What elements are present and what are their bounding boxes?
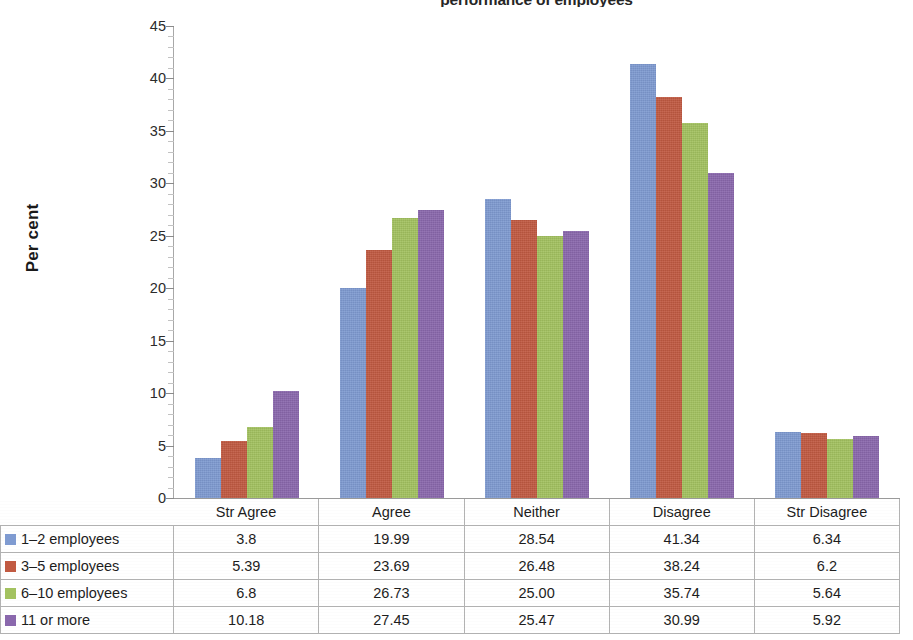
y-tick-mark xyxy=(166,26,174,27)
y-minor-tick-mark xyxy=(168,372,174,373)
legend-swatch-icon xyxy=(5,588,16,599)
table-header-row: Str AgreeAgreeNeitherDisagreeStr Disagre… xyxy=(1,499,900,526)
y-tick-mark xyxy=(166,288,174,289)
y-tick-label: 35 xyxy=(128,123,166,139)
table-value-cell: 6.8 xyxy=(174,580,319,607)
y-minor-tick-mark xyxy=(168,225,174,226)
y-tick-mark xyxy=(166,393,174,394)
table-row: 6–10 employees6.826.7325.0035.745.64 xyxy=(1,580,900,607)
legend-label: 11 or more xyxy=(21,612,90,628)
bar xyxy=(775,432,801,498)
table-value-cell: 41.34 xyxy=(609,526,754,553)
y-tick-mark xyxy=(166,78,174,79)
legend-cell: 3–5 employees xyxy=(1,553,174,580)
table-category-header: Str Disagree xyxy=(754,499,899,526)
y-minor-tick-mark xyxy=(168,383,174,384)
table-value-cell: 28.54 xyxy=(464,526,609,553)
table-value-cell: 30.99 xyxy=(609,607,754,634)
bar xyxy=(827,439,853,498)
bar xyxy=(563,231,589,498)
table-value-cell: 35.74 xyxy=(609,580,754,607)
table-category-header: Disagree xyxy=(609,499,754,526)
bar xyxy=(801,433,827,498)
y-tick-label: 20 xyxy=(128,280,166,296)
bar xyxy=(340,288,366,498)
y-axis-label: Per cent xyxy=(23,178,43,298)
table-row: 1–2 employees3.819.9928.5441.346.34 xyxy=(1,526,900,553)
y-minor-tick-mark xyxy=(168,320,174,321)
bar xyxy=(656,97,682,498)
y-minor-tick-mark xyxy=(168,162,174,163)
y-minor-tick-mark xyxy=(168,299,174,300)
bar xyxy=(247,427,273,498)
table-value-cell: 3.8 xyxy=(174,526,319,553)
table-value-cell: 6.2 xyxy=(754,553,899,580)
plot-area xyxy=(174,26,900,498)
legend-label: 1–2 employees xyxy=(21,531,119,547)
bar xyxy=(485,199,511,498)
legend-cell: 6–10 employees xyxy=(1,580,174,607)
y-minor-tick-mark xyxy=(168,467,174,468)
y-minor-tick-mark xyxy=(168,362,174,363)
bar-group xyxy=(319,26,464,498)
chart-title: performance of employees xyxy=(173,0,900,7)
bar xyxy=(708,173,734,498)
y-minor-tick-mark xyxy=(168,47,174,48)
y-tick-label: 15 xyxy=(128,333,166,349)
y-minor-tick-mark xyxy=(168,204,174,205)
table-category-header: Str Agree xyxy=(174,499,319,526)
bar xyxy=(392,218,418,498)
bar xyxy=(273,391,299,498)
y-minor-tick-mark xyxy=(168,99,174,100)
y-tick-label: 10 xyxy=(128,385,166,401)
legend-swatch-icon xyxy=(5,615,16,626)
y-minor-tick-mark xyxy=(168,309,174,310)
table-value-cell: 25.47 xyxy=(464,607,609,634)
bar xyxy=(630,64,656,498)
y-tick-label: 30 xyxy=(128,175,166,191)
y-tick-label: 40 xyxy=(128,70,166,86)
table-corner-cell xyxy=(1,499,174,526)
bar xyxy=(537,236,563,498)
bar-group xyxy=(464,26,609,498)
y-minor-tick-mark xyxy=(168,152,174,153)
y-minor-tick-mark xyxy=(168,173,174,174)
y-minor-tick-mark xyxy=(168,456,174,457)
bar xyxy=(418,210,444,498)
y-tick-mark xyxy=(166,131,174,132)
y-minor-tick-mark xyxy=(168,267,174,268)
y-minor-tick-mark xyxy=(168,110,174,111)
y-minor-tick-mark xyxy=(168,425,174,426)
y-minor-tick-mark xyxy=(168,57,174,58)
table-value-cell: 27.45 xyxy=(319,607,464,634)
y-minor-tick-mark xyxy=(168,435,174,436)
data-table: Str AgreeAgreeNeitherDisagreeStr Disagre… xyxy=(0,499,900,634)
y-tick-mark xyxy=(166,341,174,342)
table-value-cell: 19.99 xyxy=(319,526,464,553)
y-minor-tick-mark xyxy=(168,404,174,405)
legend-label: 3–5 employees xyxy=(21,558,119,574)
bar xyxy=(366,250,392,498)
table-value-cell: 5.92 xyxy=(754,607,899,634)
legend-label: 6–10 employees xyxy=(21,585,127,601)
table-value-cell: 5.39 xyxy=(174,553,319,580)
bar xyxy=(511,220,537,498)
legend-swatch-icon xyxy=(5,561,16,572)
table-category-header: Neither xyxy=(464,499,609,526)
bar xyxy=(853,436,879,498)
y-minor-tick-mark xyxy=(168,89,174,90)
y-minor-tick-mark xyxy=(168,477,174,478)
bar-group xyxy=(609,26,754,498)
bar xyxy=(195,458,221,498)
y-minor-tick-mark xyxy=(168,278,174,279)
table-row: 11 or more10.1827.4525.4730.995.92 xyxy=(1,607,900,634)
legend-swatch-icon xyxy=(5,534,16,545)
y-minor-tick-mark xyxy=(168,351,174,352)
table-value-cell: 23.69 xyxy=(319,553,464,580)
legend-cell: 11 or more xyxy=(1,607,174,634)
legend-cell: 1–2 employees xyxy=(1,526,174,553)
y-minor-tick-mark xyxy=(168,330,174,331)
y-tick-mark xyxy=(166,446,174,447)
y-minor-tick-mark xyxy=(168,414,174,415)
y-minor-tick-mark xyxy=(168,215,174,216)
